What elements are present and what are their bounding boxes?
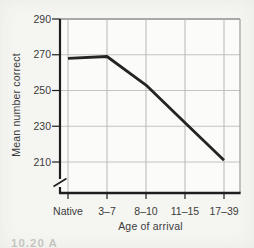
x-tick-labels: Native3–78–1011–1517–39 (53, 205, 239, 217)
y-tick-label-250: 250 (33, 84, 51, 96)
x-tick-label-2: 8–10 (134, 205, 158, 217)
x-tick-label-0: Native (53, 205, 83, 217)
y-tick-label-230: 230 (33, 120, 51, 132)
x-tick-label-4: 17–39 (209, 205, 238, 217)
plot-area (60, 19, 240, 193)
x-axis-title: Age of arrival (60, 220, 241, 232)
line-chart: 290270250230210 Native3–78–1011–1517–39 (0, 0, 254, 248)
y-tick-labels: 290270250230210 (33, 13, 51, 168)
figure-caption-fragment: 10.20 A (11, 237, 58, 248)
x-tick-label-3: 11–15 (171, 205, 200, 217)
y-tick-label-290: 290 (33, 13, 51, 25)
x-tick-label-1: 3–7 (98, 205, 116, 217)
figure: 290270250230210 Native3–78–1011–1517–39 … (0, 0, 254, 248)
plot-background (60, 19, 240, 193)
y-tick-label-210: 210 (33, 156, 51, 168)
y-axis-title: Mean number correct (10, 25, 22, 185)
y-tick-label-270: 270 (33, 48, 51, 60)
